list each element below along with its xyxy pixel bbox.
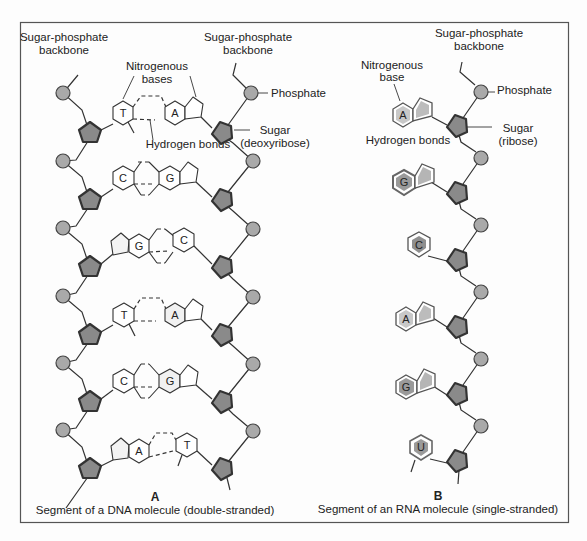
rna-sugar-label-2: (ribose) xyxy=(499,135,538,147)
dna-panel-letter: A xyxy=(151,490,160,504)
base-letter: G xyxy=(400,176,409,188)
rna-backbone-label-1: Sugar-phosphate xyxy=(435,27,523,39)
rna-nitrogenous-base-label-2: base xyxy=(380,71,405,83)
phosphate-icon xyxy=(246,222,260,236)
dna-backbone-left-label-2: backbone xyxy=(39,44,89,56)
phosphate-icon xyxy=(474,352,488,366)
dna-backbone-right-label-2: backbone xyxy=(223,44,273,56)
phosphate-icon xyxy=(474,218,488,232)
nucleic-acid-diagram: Sugar-phosphate backbone Sugar-phosphate… xyxy=(0,0,587,541)
base-letter: A xyxy=(399,109,407,121)
phosphate-icon xyxy=(474,419,488,433)
dna-sugar-label-1: Sugar xyxy=(260,124,291,136)
dna-backbone-right-label-1: Sugar-phosphate xyxy=(204,31,292,43)
rna-phosphate-label: Phosphate xyxy=(497,84,552,96)
base-letter: C xyxy=(119,172,127,184)
dna-nitrogenous-bases-label-1: Nitrogenous xyxy=(126,60,188,72)
base-letter: G xyxy=(166,172,175,184)
phosphate-icon xyxy=(474,85,488,99)
phosphate-icon xyxy=(474,285,488,299)
phosphate-icon xyxy=(246,290,260,304)
base-letter: C xyxy=(120,375,128,387)
rna-panel-letter: B xyxy=(434,489,443,503)
base-letter: G xyxy=(135,240,144,252)
base-letter: A xyxy=(171,107,179,119)
base-letter: A xyxy=(171,309,179,321)
base-letter: A xyxy=(402,313,410,325)
phosphate-icon xyxy=(56,423,70,437)
base-letter: G xyxy=(402,381,411,393)
base-letter: T xyxy=(120,107,127,119)
base-letter: T xyxy=(184,439,191,451)
phosphate-icon xyxy=(56,289,70,303)
rna-backbone-label-2: backbone xyxy=(454,40,504,52)
base-letter: C xyxy=(180,234,188,246)
rna-sugar-label-1: Sugar xyxy=(503,122,534,134)
phosphate-icon xyxy=(244,86,258,100)
phosphate-icon xyxy=(56,154,70,168)
base-letter: T xyxy=(121,309,128,321)
dna-backbone-left-label-1: Sugar-phosphate xyxy=(20,31,108,43)
rna-nitrogenous-base-label-1: Nitrogenous xyxy=(361,59,423,71)
rna-caption: Segment of an RNA molecule (single-stran… xyxy=(318,503,559,515)
dna-caption: Segment of a DNA molecule (double-strand… xyxy=(36,504,275,516)
base-letter: A xyxy=(135,445,143,457)
phosphate-icon xyxy=(246,424,260,438)
dna-phosphate-label: Phosphate xyxy=(271,87,326,99)
phosphate-icon xyxy=(56,86,70,100)
dna-sugar-label-2: (deoxyribose) xyxy=(240,137,310,149)
phosphate-icon xyxy=(56,356,70,370)
rna-hydrogen-bonds-label: Hydrogen bonds xyxy=(366,134,451,146)
phosphate-icon xyxy=(474,151,488,165)
phosphate-icon xyxy=(246,357,260,371)
base-letter: C xyxy=(415,239,423,251)
dna-nitrogenous-bases-label-2: bases xyxy=(142,73,173,85)
phosphate-icon xyxy=(56,221,70,235)
base-letter: G xyxy=(166,375,175,387)
phosphate-icon xyxy=(246,154,260,168)
base-letter: U xyxy=(417,441,425,453)
